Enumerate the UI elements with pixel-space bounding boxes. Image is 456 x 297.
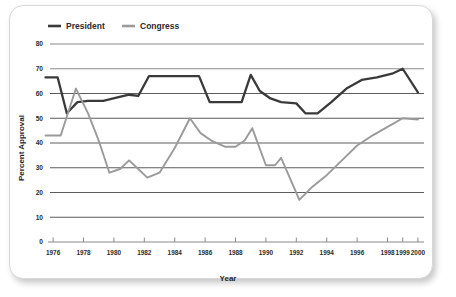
x-axis-title: Year <box>220 274 237 283</box>
axes <box>48 238 424 243</box>
gridlines <box>50 44 424 217</box>
y-axis-tick-label: 50 <box>36 115 44 122</box>
x-axis-tick-label: 1990 <box>259 249 274 256</box>
x-axis-tick-label: 1984 <box>168 249 183 256</box>
x-axis-tick-label: 1986 <box>198 249 213 256</box>
x-axis-tick-label: 1982 <box>137 249 152 256</box>
y-axis-tick-label: 30 <box>36 164 44 171</box>
legend-label-president: President <box>66 21 105 31</box>
y-axis-tick-label: 10 <box>36 214 44 221</box>
x-axis-tick-label: 1994 <box>320 249 335 256</box>
x-axis-tick-label: 1980 <box>107 249 122 256</box>
legend-label-congress: Congress <box>140 21 179 31</box>
chart-legend: PresidentCongress <box>48 21 179 31</box>
x-axis-tick-label: 1976 <box>46 249 61 256</box>
approval-line-chart: PresidentCongress 01020304050607080 1976… <box>0 0 456 297</box>
y-axis-tick-label: 20 <box>36 189 44 196</box>
x-axis-tick-label: 2000 <box>411 249 426 256</box>
x-axis-tick-label: 1999 <box>396 249 411 256</box>
data-series <box>46 69 418 200</box>
y-axis-tick-label: 40 <box>36 139 44 146</box>
y-axis-tick-label: 0 <box>39 238 43 245</box>
y-axis-title: Percent Approval <box>17 115 26 181</box>
x-axis-tick-label: 1978 <box>76 249 91 256</box>
y-axis-tick-label: 80 <box>36 40 44 47</box>
x-axis-tick-label: 1988 <box>228 249 243 256</box>
series-line-president <box>46 69 418 114</box>
series-line-congress <box>46 89 418 200</box>
x-axis-tick-label: 1992 <box>289 249 304 256</box>
x-axis-tick-labels: 1976197819801982198419861988199019921994… <box>46 249 425 256</box>
x-axis-tick-label: 1996 <box>350 249 365 256</box>
y-axis-tick-labels: 01020304050607080 <box>36 40 44 245</box>
y-axis-tick-label: 60 <box>36 90 44 97</box>
chart-container: PresidentCongress 01020304050607080 1976… <box>0 0 456 297</box>
x-axis-tick-label: 1998 <box>380 249 395 256</box>
y-axis-tick-label: 70 <box>36 65 44 72</box>
